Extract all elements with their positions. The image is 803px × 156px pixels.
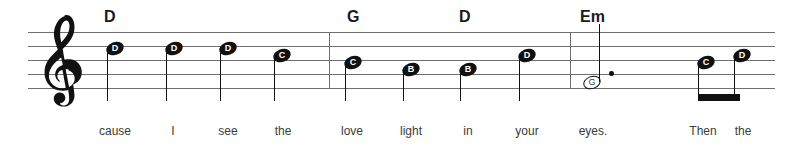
note-stem <box>166 49 168 101</box>
staff-line-2 <box>28 46 775 47</box>
note-stem <box>519 56 521 101</box>
note-b-6[interactable]: B <box>402 63 420 76</box>
note-g-9[interactable]: G <box>583 76 601 89</box>
staff-line-3 <box>28 60 775 61</box>
eighth-note-beam <box>698 94 740 101</box>
sheet-music-staff-system: DGDEm DDDCCBBDGCD causeIseethelovelighti… <box>0 0 803 156</box>
note-stem <box>345 63 347 101</box>
lyric-syllable[interactable]: your <box>515 124 538 138</box>
staff-line-1 <box>28 32 775 33</box>
note-d-2[interactable]: D <box>165 42 183 55</box>
treble-clef-icon <box>34 13 86 109</box>
note-d-1[interactable]: D <box>106 42 124 55</box>
lyric-syllable[interactable]: cause <box>99 124 131 138</box>
chord-symbol-d-1[interactable]: D <box>104 8 116 26</box>
note-stem <box>274 56 276 101</box>
lyric-syllable[interactable]: I <box>171 124 174 138</box>
chord-symbol-em-4[interactable]: Em <box>580 8 605 26</box>
note-stem <box>107 49 109 101</box>
lyric-syllable[interactable]: love <box>341 124 363 138</box>
note-b-7[interactable]: B <box>459 63 477 76</box>
lyric-syllable[interactable]: eyes. <box>579 124 608 138</box>
note-c-4[interactable]: C <box>273 49 291 62</box>
barline-1 <box>329 32 330 89</box>
note-stem <box>220 49 222 101</box>
lyric-syllable[interactable]: the <box>735 124 752 138</box>
note-stem <box>403 70 405 101</box>
lyric-syllable[interactable]: see <box>218 124 237 138</box>
chord-symbol-d-3[interactable]: D <box>459 8 471 26</box>
augmentation-dot <box>609 71 614 76</box>
lyric-syllable[interactable]: in <box>463 124 472 138</box>
note-stem <box>599 24 601 82</box>
lyric-syllable[interactable]: light <box>400 124 422 138</box>
note-d-3[interactable]: D <box>219 42 237 55</box>
note-d-11[interactable]: D <box>733 49 751 62</box>
chord-symbol-g-2[interactable]: G <box>347 8 359 26</box>
lyric-syllable[interactable]: Then <box>689 124 716 138</box>
note-c-5[interactable]: C <box>344 56 362 69</box>
note-c-10[interactable]: C <box>697 56 715 69</box>
note-d-8[interactable]: D <box>518 49 536 62</box>
staff-line-5 <box>28 88 775 89</box>
barline-2 <box>570 32 571 89</box>
note-stem <box>460 70 462 101</box>
lyric-syllable[interactable]: the <box>275 124 292 138</box>
